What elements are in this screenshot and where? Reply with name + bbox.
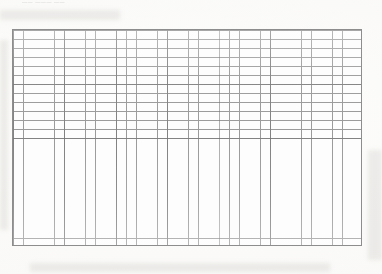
scan-smudge-right bbox=[368, 150, 382, 260]
scanned-page: —— ——— —— bbox=[0, 0, 382, 274]
faint-header-text: —— ——— —— bbox=[22, 0, 65, 6]
scan-smudge-left bbox=[0, 40, 8, 230]
grid-emphasis-lines bbox=[13, 30, 361, 245]
scan-smudge-bottom bbox=[30, 263, 330, 272]
scan-smudge-top bbox=[0, 10, 120, 20]
graph-paper-grid bbox=[12, 29, 362, 246]
grid-scan-wash bbox=[13, 30, 361, 245]
